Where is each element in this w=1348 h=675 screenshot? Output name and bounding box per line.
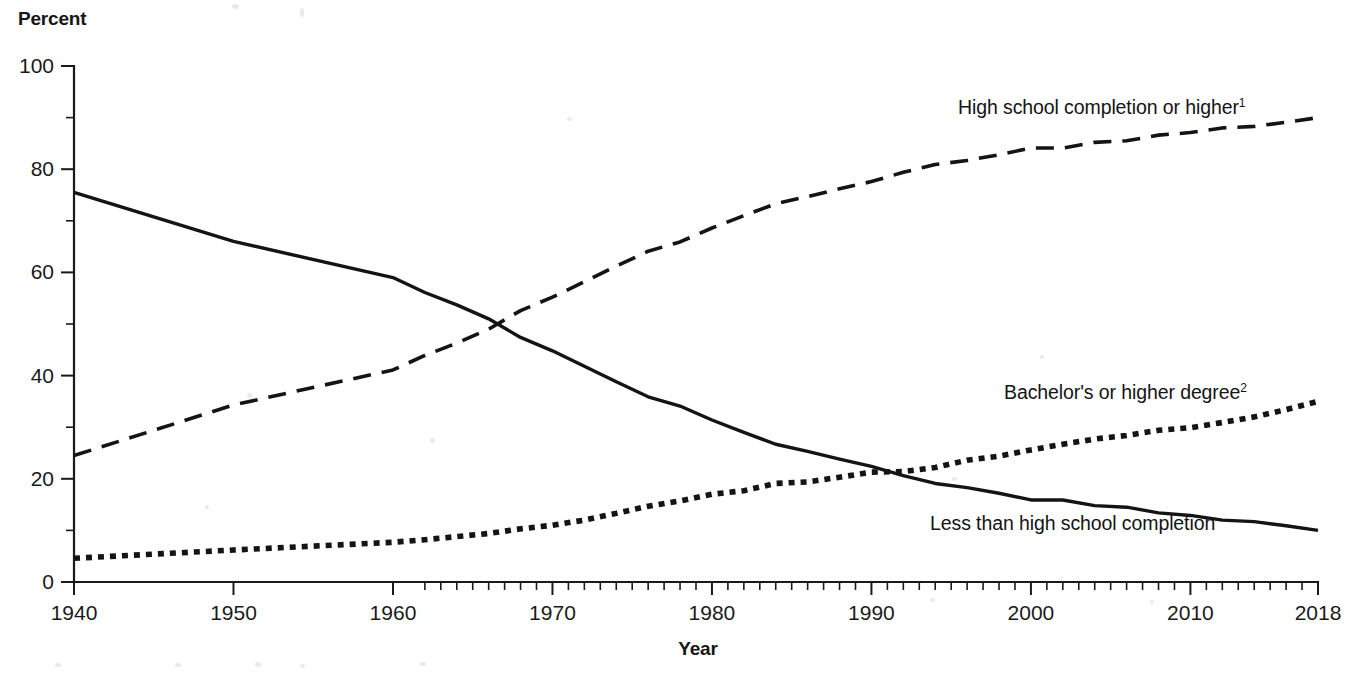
series-label-footnote-marker: 1 bbox=[1239, 96, 1246, 110]
scan-artifact-speck bbox=[567, 117, 572, 121]
scan-artifact-speck bbox=[930, 598, 935, 602]
y-axis-tick-label: 60 bbox=[0, 260, 54, 284]
series-label-bachelors: Bachelor's or higher degree2 bbox=[1004, 381, 1247, 404]
series-label-less-than-hs: Less than high school completion bbox=[930, 512, 1215, 535]
y-axis-tick-label: 20 bbox=[0, 467, 54, 491]
series-label-text: Bachelor's or higher degree bbox=[1004, 381, 1240, 403]
x-axis-tick-label: 1960 bbox=[370, 601, 417, 625]
x-axis-tick-label: 2000 bbox=[1008, 601, 1055, 625]
series-line-dashed bbox=[74, 118, 1318, 456]
scan-artifact-speck bbox=[1040, 355, 1044, 359]
y-axis-title: Percent bbox=[18, 8, 86, 30]
series-label-hs-completion: High school completion or higher1 bbox=[958, 96, 1245, 119]
x-axis-tick-label: 2018 bbox=[1295, 601, 1342, 625]
series-line-solid bbox=[74, 192, 1318, 530]
x-axis-tick-label: 2010 bbox=[1167, 601, 1214, 625]
x-axis-tick-label: 1970 bbox=[529, 601, 576, 625]
scan-artifact-speck bbox=[205, 505, 209, 509]
chart-axes bbox=[74, 66, 1318, 582]
y-axis-tick-label: 80 bbox=[0, 157, 54, 181]
y-axis-tick-label: 40 bbox=[0, 364, 54, 388]
series-label-text: Less than high school completion bbox=[930, 512, 1215, 534]
series-label-footnote-marker: 2 bbox=[1240, 381, 1247, 395]
scan-artifact-speck bbox=[300, 664, 305, 668]
x-axis-tick-label: 1990 bbox=[848, 601, 895, 625]
y-axis-tick-label: 0 bbox=[0, 570, 54, 594]
scan-artifact-speck bbox=[255, 662, 261, 667]
scan-artifact-speck bbox=[430, 438, 435, 443]
scan-artifact-speck bbox=[175, 663, 181, 667]
x-axis-tick-label: 1980 bbox=[689, 601, 736, 625]
scan-artifact-speck bbox=[1150, 600, 1154, 604]
chart-figure: Percent Year 100806040200194019501960197… bbox=[0, 0, 1348, 675]
x-axis-tick-label: 1940 bbox=[51, 601, 98, 625]
x-axis-tick-label: 1950 bbox=[210, 601, 257, 625]
scan-artifact-speck bbox=[55, 663, 61, 667]
scan-artifact-speck bbox=[232, 4, 239, 9]
scan-artifact-speck bbox=[420, 662, 426, 666]
scan-artifact-speck bbox=[300, 8, 304, 17]
series-label-text: High school completion or higher bbox=[958, 96, 1239, 118]
x-axis-title: Year bbox=[0, 638, 1348, 660]
scan-artifact-speck bbox=[952, 477, 957, 481]
y-axis-tick-label: 100 bbox=[0, 54, 54, 78]
scan-artifact-speck bbox=[247, 393, 252, 398]
